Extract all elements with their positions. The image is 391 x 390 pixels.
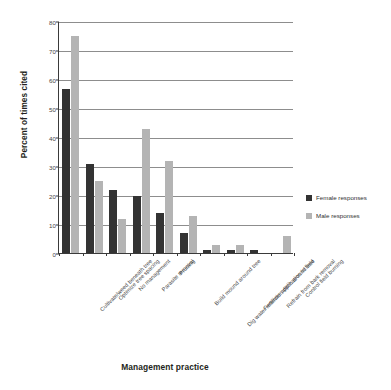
y-tick-label: 80: [49, 19, 56, 26]
x-tick-mark: [224, 253, 225, 256]
x-tick-mark: [83, 253, 84, 256]
bar-group: [180, 22, 197, 253]
bar-group: [62, 22, 79, 253]
bar-chart: Percent of times cited 01020304050607080…: [0, 0, 391, 390]
x-tick-mark: [177, 253, 178, 256]
y-tick-label: 30: [49, 164, 56, 171]
legend-item: Female responses: [306, 194, 367, 201]
x-tick-mark: [271, 253, 272, 256]
bar-female: [109, 190, 117, 253]
y-tick-label: 50: [49, 106, 56, 113]
bar-group: [274, 22, 291, 253]
legend-swatch-icon: [306, 213, 312, 219]
bar-male: [236, 245, 244, 253]
y-tick-label: 10: [49, 222, 56, 229]
plot-area: 01020304050607080: [58, 22, 293, 254]
legend-swatch-icon: [306, 195, 312, 201]
x-tick-mark: [200, 253, 201, 256]
bar-male: [165, 161, 173, 253]
y-tick-label: 70: [49, 48, 56, 55]
legend-label: Female responses: [316, 194, 367, 201]
x-tick-mark: [294, 253, 295, 256]
bar-female: [227, 250, 235, 253]
bar-female: [180, 233, 188, 253]
x-axis-category-label: Optimize tree spacing: [117, 258, 160, 301]
x-axis-labels: Cultivate/weed beneath treeOptimize tree…: [58, 258, 358, 353]
y-tick-label: 40: [49, 135, 56, 142]
bar-group: [86, 22, 103, 253]
bar-male: [71, 36, 79, 254]
y-tick-label: 0: [53, 251, 56, 258]
bar-group: [133, 22, 150, 253]
bar-female: [133, 196, 141, 253]
bar-group: [109, 22, 126, 253]
x-tick-mark: [59, 253, 60, 256]
bar-male: [95, 181, 103, 253]
bar-male: [283, 236, 291, 253]
bar-group: [156, 22, 173, 253]
bar-female: [156, 213, 164, 253]
x-axis-title: Management practice: [0, 362, 330, 372]
bar-female: [62, 89, 70, 253]
bar-group: [203, 22, 220, 253]
legend-item: Male responses: [306, 212, 367, 219]
chart-legend: Female responsesMale responses: [306, 194, 367, 230]
bar-male: [142, 129, 150, 253]
y-tick-label: 60: [49, 77, 56, 84]
bars-layer: [59, 22, 293, 253]
legend-label: Male responses: [316, 212, 360, 219]
bar-male: [118, 219, 126, 253]
x-tick-mark: [247, 253, 248, 256]
bar-group: [227, 22, 244, 253]
bar-male: [212, 245, 220, 253]
bar-female: [203, 250, 211, 253]
y-axis-title: Percent of times cited: [20, 45, 29, 185]
y-tick-label: 20: [49, 193, 56, 200]
x-tick-mark: [106, 253, 107, 256]
bar-group: [250, 22, 267, 253]
bar-female: [86, 164, 94, 253]
x-tick-mark: [130, 253, 131, 256]
bar-female: [250, 250, 258, 253]
bar-male: [189, 216, 197, 253]
x-tick-mark: [153, 253, 154, 256]
x-axis-category-label: Build mound around tree: [214, 258, 262, 306]
